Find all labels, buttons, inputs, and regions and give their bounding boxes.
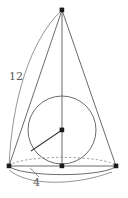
cone-left-slant-line (9, 10, 62, 166)
base-left-point (7, 164, 12, 169)
base-right-point (114, 164, 119, 169)
apex-point (60, 8, 65, 13)
base-radius-label: 4 (33, 177, 40, 188)
base-center-point (60, 164, 65, 169)
slant-height-label: 12 (9, 71, 23, 82)
geometry-figure: 12 4 (0, 0, 128, 198)
sphere-center-point (60, 128, 65, 133)
cone-sphere-diagram (0, 0, 128, 198)
cone-right-slant-line (62, 10, 116, 166)
sphere-radius-line (31, 130, 62, 151)
